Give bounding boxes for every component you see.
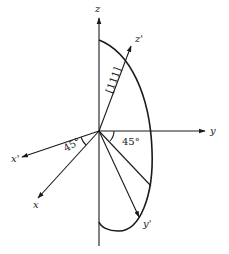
- angle-label-right: 45°: [122, 136, 140, 147]
- x-axis-label: x: [33, 199, 39, 210]
- z-prime-label: z': [134, 33, 143, 44]
- direction-label-111: [111]: [104, 66, 124, 95]
- angle-arc-left: [81, 137, 86, 145]
- x-prime-label: x': [11, 153, 19, 164]
- coordinate-rotation-diagram: z z' [111] y 45° x' x 45° y': [0, 0, 229, 254]
- y-axis-label: y: [209, 125, 216, 136]
- y-prime-label: y': [142, 218, 151, 229]
- angle-arc-right: [110, 131, 114, 141]
- z-axis-label: z: [94, 3, 101, 14]
